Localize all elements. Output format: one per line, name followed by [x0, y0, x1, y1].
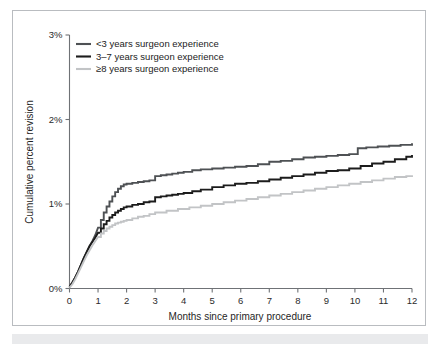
x-tick-label: 3: [152, 295, 157, 306]
x-tick-label: 10: [350, 295, 361, 306]
series-line-0: [70, 143, 413, 287]
legend-label-0: <3 years surgeon experience: [96, 38, 219, 49]
x-tick-label: 4: [181, 295, 186, 306]
cumulative-revision-chart: 0%1%2%3% 0123456789101112 <3 years surge…: [0, 0, 440, 352]
y-tick-group: 0%1%2%3%: [49, 29, 70, 294]
x-tick-label: 5: [210, 295, 215, 306]
series-line-2: [70, 175, 413, 287]
x-tick-group: 0123456789101112: [67, 289, 417, 307]
chart-legend: <3 years surgeon experience3–7 years sur…: [76, 38, 224, 74]
x-tick-label: 12: [407, 295, 418, 306]
x-tick-label: 1: [95, 295, 100, 306]
y-tick-label: 0%: [49, 283, 63, 294]
series-group: [70, 143, 413, 287]
x-tick-label: 2: [124, 295, 129, 306]
y-tick-label: 2%: [49, 114, 63, 125]
x-tick-label: 7: [267, 295, 272, 306]
x-tick-label: 6: [238, 295, 243, 306]
legend-label-1: 3–7 years surgeon experience: [96, 51, 224, 62]
x-axis-title: Months since primary procedure: [169, 311, 312, 322]
figure-root: 0%1%2%3% 0123456789101112 <3 years surge…: [0, 0, 440, 352]
x-tick-label: 8: [295, 295, 300, 306]
x-tick-label: 9: [324, 295, 329, 306]
y-tick-label: 1%: [49, 198, 63, 209]
y-axis-title: Cumulative percent revision: [24, 100, 35, 223]
legend-label-2: ≥8 years surgeon experience: [96, 63, 218, 74]
x-tick-label: 11: [379, 295, 389, 306]
y-tick-label: 3%: [49, 29, 63, 40]
x-tick-label: 0: [67, 295, 72, 306]
